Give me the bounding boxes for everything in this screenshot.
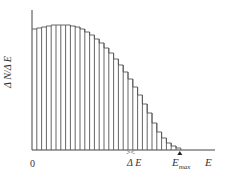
- emax-label: Emax: [172, 157, 190, 171]
- y-axis-label: Δ N/Δ E: [3, 56, 13, 88]
- x-axis-label: E: [205, 157, 212, 168]
- emax-main: E: [172, 156, 179, 168]
- x-axis-origin-label: 0: [30, 159, 35, 169]
- delta-e-label: Δ E: [127, 158, 141, 168]
- histogram-chart: [0, 0, 228, 178]
- emax-arrow-icon: [177, 151, 182, 155]
- emax-subscript: max: [179, 163, 191, 171]
- histogram-step-outline: [32, 25, 181, 148]
- delta-e-width-marker: > <: [126, 149, 134, 157]
